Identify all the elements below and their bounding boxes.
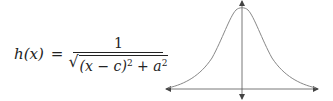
- plot: [0, 0, 333, 101]
